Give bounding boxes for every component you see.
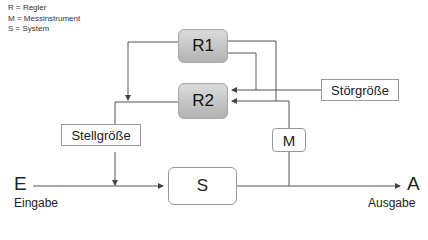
r1-right-lower-line	[226, 53, 256, 90]
regler-r2-block[interactable]: R2	[178, 83, 228, 119]
regler-r1-block[interactable]: R1	[178, 29, 228, 63]
input-symbol: E	[14, 173, 27, 195]
stellgroesse-label: Stellgröße	[71, 128, 130, 143]
output-symbol: A	[407, 173, 420, 195]
output-label: Ausgabe	[368, 196, 415, 210]
r1-right-upper-line	[226, 41, 276, 101]
regler-r2-label: R2	[192, 91, 214, 111]
messinstrument-m-block[interactable]: M	[272, 128, 306, 152]
stoergroesse-box[interactable]: Störgröße	[321, 79, 399, 101]
r1-left-line	[128, 42, 178, 100]
system-s-block[interactable]: S	[168, 167, 237, 205]
regler-r1-label: R1	[192, 36, 214, 56]
stoergroesse-label: Störgröße	[331, 83, 389, 98]
stellgroesse-box[interactable]: Stellgröße	[61, 124, 141, 146]
input-label: Eingabe	[14, 196, 58, 210]
messinstrument-m-label: M	[283, 132, 296, 149]
system-s-label: S	[197, 176, 208, 196]
